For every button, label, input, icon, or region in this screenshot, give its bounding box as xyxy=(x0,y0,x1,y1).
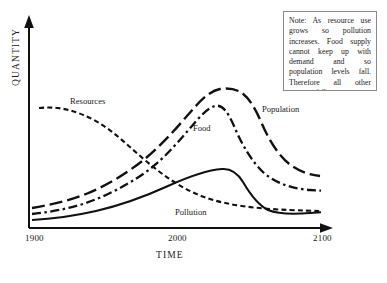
series-label-pollution: Pollution xyxy=(175,207,207,217)
x-axis-arrow-icon xyxy=(320,223,333,233)
limits-to-growth-chart: QUANTITY TIME 1900 2000 2100 Resources F… xyxy=(0,0,387,283)
x-tick-2000: 2000 xyxy=(168,233,187,243)
x-axis-label: TIME xyxy=(156,250,184,260)
x-tick-2100: 2100 xyxy=(313,233,332,243)
y-axis-label: QUANTITY xyxy=(11,27,21,87)
y-axis-arrow-icon xyxy=(24,15,34,28)
note-annotation-box: Note: As resource use grows so pollution… xyxy=(283,11,377,91)
series-label-population: Population xyxy=(262,104,299,114)
x-tick-1900: 1900 xyxy=(25,233,44,243)
series-label-food: Food xyxy=(193,123,211,133)
series-label-resources: Resources xyxy=(70,96,105,106)
